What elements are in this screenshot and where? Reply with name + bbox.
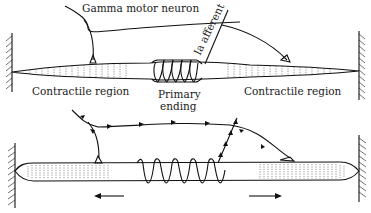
top-panel: Gamma motor neuron Ia afferent Contracti… xyxy=(6,1,365,112)
label-contractile-region-right: Contractile region xyxy=(244,85,342,97)
gamma-endplate-bottom xyxy=(95,156,102,163)
right-anchor-wall xyxy=(359,31,365,100)
label-primary-ending-line2: ending xyxy=(160,100,197,112)
left-anchor-wall-bottom xyxy=(8,143,15,208)
contracted-region-left xyxy=(28,165,108,179)
bottom-panel xyxy=(8,110,366,208)
label-contractile-region-left: Contractile region xyxy=(32,85,130,97)
gamma-motor-neuron-fiber-bottom xyxy=(72,110,290,158)
arrow-left-contraction xyxy=(94,193,124,199)
label-primary-ending-line1: Primary xyxy=(158,88,201,100)
right-anchor-wall-bottom xyxy=(359,135,366,202)
left-anchor-wall xyxy=(6,33,12,92)
efferent-arrowheads xyxy=(80,115,265,149)
intrafusal-fiber-top xyxy=(12,62,359,80)
label-gamma-motor-neuron: Gamma motor neuron xyxy=(82,2,199,14)
muscle-spindle-diagram: Gamma motor neuron Ia afferent Contracti… xyxy=(0,0,371,213)
afferent-ending-bottom xyxy=(280,157,294,161)
arrow-right-contraction xyxy=(249,193,282,199)
primary-ending-coil-top xyxy=(154,60,198,82)
contracted-region-right xyxy=(260,164,344,179)
